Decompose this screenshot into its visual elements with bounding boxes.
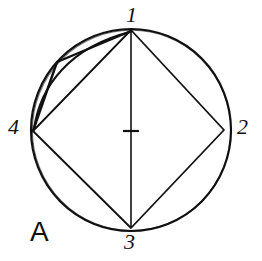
chord-4-to-1 bbox=[33, 30, 131, 131]
panel-label-a: A bbox=[30, 218, 49, 246]
vertex-label-2: 2 bbox=[237, 116, 248, 138]
figure-panel: 1 2 3 4 A bbox=[0, 0, 262, 261]
vertex-label-1: 1 bbox=[126, 4, 137, 26]
vertex-label-3: 3 bbox=[124, 231, 135, 253]
vertex-label-4: 4 bbox=[8, 116, 19, 138]
